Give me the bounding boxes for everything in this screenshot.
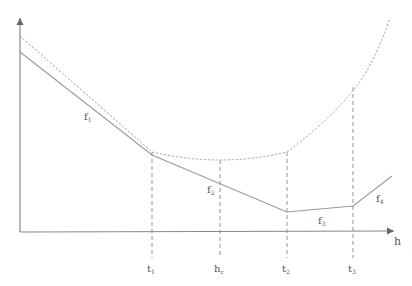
tick-t2: t2	[282, 263, 290, 275]
tick-t3: t3	[348, 263, 356, 275]
upper-envelope-curve	[20, 18, 390, 160]
label-f1: f1	[84, 111, 92, 123]
label-f2: f2	[207, 184, 215, 196]
x-axis	[20, 231, 394, 232]
diagram-canvas: f1 f2 f3 f4 h t1 hc t2 t3	[0, 0, 412, 286]
x-axis-label: h	[394, 235, 401, 248]
piecewise-function	[20, 52, 392, 212]
tick-t1: t1	[147, 263, 155, 275]
label-f3: f3	[318, 215, 326, 227]
tick-hc: hc	[214, 263, 224, 275]
label-f4: f4	[376, 193, 384, 205]
